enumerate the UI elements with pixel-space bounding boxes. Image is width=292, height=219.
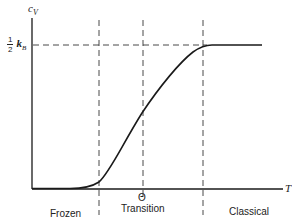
y-axis-subscript: V (33, 8, 38, 17)
region-label-classical: Classical (229, 206, 269, 217)
x-axis-label: T (285, 182, 291, 194)
heat-capacity-curve (32, 45, 262, 189)
y-axis-label: cV (28, 2, 38, 17)
plateau-symbol: kB (16, 37, 26, 52)
fraction-denominator: 2 (8, 45, 12, 54)
plateau-fraction: 1 2 (7, 35, 13, 54)
theta-label: Θ (138, 192, 146, 203)
diagram-canvas (0, 0, 292, 219)
region-label-transition: Transition (121, 203, 165, 214)
fraction-numerator: 1 (7, 35, 13, 45)
region-label-frozen: Frozen (50, 208, 81, 219)
plateau-label: 1 2 kB (7, 35, 26, 54)
